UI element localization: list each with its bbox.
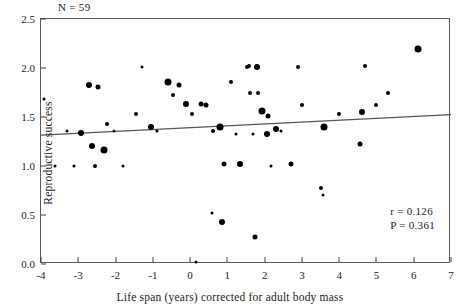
- x-tick-mark: [190, 257, 191, 262]
- sample-size-annotation: N = 59: [58, 1, 90, 13]
- data-point: [363, 64, 367, 68]
- x-tick-label: -1: [148, 269, 157, 281]
- data-point: [66, 129, 69, 132]
- data-point: [252, 132, 255, 135]
- data-point: [248, 91, 252, 95]
- y-tick-mark: [41, 215, 46, 216]
- x-tick-mark: [376, 257, 377, 262]
- y-tick-mark: [41, 68, 46, 69]
- x-tick-mark: [413, 257, 414, 262]
- data-point: [105, 122, 109, 126]
- x-tick-label: 4: [336, 269, 342, 281]
- data-point: [164, 78, 171, 85]
- data-point: [86, 82, 92, 88]
- x-tick-mark: [41, 257, 42, 262]
- data-point: [134, 112, 138, 116]
- data-point: [210, 212, 213, 215]
- y-tick-mark: [41, 264, 46, 265]
- data-point: [258, 108, 265, 115]
- data-point: [300, 103, 304, 107]
- x-axis-label: Life span (years) corrected for adult bo…: [0, 291, 460, 303]
- data-point: [203, 103, 208, 108]
- data-point: [386, 91, 390, 95]
- data-point: [219, 219, 225, 225]
- data-point: [337, 112, 341, 116]
- data-point: [270, 165, 273, 168]
- x-tick-mark: [339, 257, 340, 262]
- x-tick-label: 0: [187, 269, 193, 281]
- data-point: [171, 93, 175, 97]
- data-point: [237, 161, 243, 167]
- data-point: [93, 164, 97, 168]
- x-tick-label: -4: [36, 269, 45, 281]
- data-point: [374, 103, 378, 107]
- figure: N = 59 0.00.51.01.52.02.5 -4-3-2-1012345…: [0, 0, 460, 306]
- x-tick-label: 2: [262, 269, 268, 281]
- x-tick-label: 7: [448, 269, 454, 281]
- data-point: [253, 234, 258, 239]
- y-tick-label: 0.5: [21, 209, 35, 221]
- data-point: [122, 165, 125, 168]
- statistics-annotation: r = 0.126 P = 0.361: [390, 204, 435, 232]
- data-point: [229, 80, 233, 84]
- data-point: [359, 109, 365, 115]
- data-point: [234, 132, 237, 135]
- x-tick-label: -2: [111, 269, 120, 281]
- data-point: [319, 186, 323, 190]
- data-point: [156, 129, 159, 132]
- data-point: [183, 101, 189, 107]
- y-tick-label: 1.5: [21, 111, 35, 123]
- y-tick-label: 2.0: [21, 62, 35, 74]
- data-point: [266, 114, 271, 119]
- data-point: [321, 123, 328, 130]
- x-tick-label: -3: [74, 269, 83, 281]
- correlation-value: r = 0.126: [390, 204, 435, 218]
- x-tick-mark: [264, 257, 265, 262]
- data-point: [96, 84, 101, 89]
- data-point: [216, 123, 223, 130]
- data-point: [101, 147, 108, 154]
- data-point: [148, 124, 154, 130]
- data-point: [190, 112, 194, 116]
- data-point: [254, 64, 260, 70]
- x-tick-label: 6: [411, 269, 417, 281]
- y-tick-label: 1.0: [21, 160, 35, 172]
- data-point: [54, 165, 57, 168]
- data-point: [357, 142, 362, 147]
- data-point: [280, 129, 283, 132]
- data-point: [78, 130, 84, 136]
- y-axis-label: Reproductive success: [42, 101, 54, 204]
- x-tick-mark: [78, 257, 79, 262]
- x-tick-mark: [451, 257, 452, 262]
- x-tick-mark: [227, 257, 228, 262]
- y-tick-mark: [41, 19, 46, 20]
- data-point: [176, 82, 181, 87]
- data-point: [222, 162, 227, 167]
- y-tick-label: 0.0: [21, 258, 35, 270]
- data-point: [264, 131, 270, 137]
- x-tick-mark: [152, 257, 153, 262]
- data-point: [194, 261, 197, 264]
- p-value: P = 0.361: [390, 218, 435, 232]
- data-point: [72, 165, 75, 168]
- data-point: [296, 65, 300, 69]
- x-tick-mark: [115, 257, 116, 262]
- data-point: [321, 194, 324, 197]
- data-point: [415, 46, 422, 53]
- plot-area: 0.00.51.01.52.02.5 -4-3-2-101234567 r = …: [40, 18, 450, 263]
- data-point: [247, 64, 251, 68]
- x-tick-mark: [301, 257, 302, 262]
- x-tick-label: 3: [299, 269, 305, 281]
- data-point: [256, 91, 260, 95]
- data-point: [112, 129, 115, 132]
- x-tick-label: 5: [374, 269, 380, 281]
- data-point: [288, 162, 293, 167]
- data-point: [211, 129, 215, 133]
- data-point: [140, 66, 143, 69]
- x-tick-label: 1: [225, 269, 231, 281]
- y-tick-label: 2.5: [21, 13, 35, 25]
- data-point: [273, 126, 279, 132]
- regression-line-path: [41, 115, 451, 136]
- data-point: [89, 143, 95, 149]
